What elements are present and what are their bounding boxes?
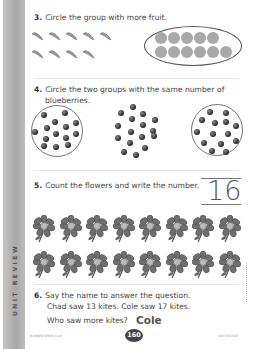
- blueberry-icon: [118, 110, 124, 116]
- orange-icon: [168, 32, 180, 44]
- blueberry-icon: [63, 135, 69, 141]
- blueberry-icon: [41, 143, 47, 149]
- question-3: 3.Circle the group with more fruit.: [34, 13, 167, 22]
- blueberry-icon: [223, 110, 229, 116]
- blueberry-icon: [41, 112, 47, 118]
- flower-icon: [33, 215, 55, 243]
- flower-icon: [86, 251, 108, 279]
- flower-icon: [86, 215, 108, 243]
- blueberry-icon: [53, 144, 59, 150]
- orange-icon: [194, 46, 206, 58]
- blueberry-icon: [133, 152, 139, 158]
- orange-icon: [181, 32, 193, 44]
- blueberry-icon: [199, 117, 205, 123]
- blueberry-icon: [128, 129, 134, 135]
- orange-icon: [168, 46, 180, 58]
- blueberry-icon: [233, 138, 239, 144]
- orange-icon: [220, 46, 232, 58]
- blueberry-icon: [212, 120, 218, 126]
- flower-icon: [113, 215, 135, 243]
- question-6-prompt: Who saw more kites?: [47, 316, 128, 325]
- blueberry-icon: [140, 122, 146, 128]
- blueberry-icon: [121, 149, 127, 155]
- orange-icon: [181, 46, 193, 58]
- blueberry-icon: [62, 110, 68, 116]
- banana-icon: [48, 31, 62, 41]
- flower-icon: [60, 251, 82, 279]
- question-4: 4.Circle the two groups with the same nu…: [34, 84, 224, 106]
- blueberry-icon: [44, 125, 50, 131]
- blueberry-icon: [53, 131, 59, 137]
- orange-icon: [194, 32, 206, 44]
- blueberry-icon: [223, 119, 229, 125]
- orange-icon: [207, 46, 219, 58]
- blueberry-icon: [209, 148, 215, 154]
- banana-icon: [31, 49, 45, 59]
- flower-icon: [60, 215, 82, 243]
- answer-value: Cole: [136, 314, 162, 326]
- flower-icon: [192, 215, 214, 243]
- banana-icon: [31, 31, 45, 41]
- blueberry-icon: [139, 134, 145, 140]
- answer-bottom-line: [201, 204, 241, 205]
- answer-value: 16: [207, 176, 241, 206]
- blueberry-icon: [130, 104, 136, 110]
- blueberry-icon: [142, 145, 148, 151]
- blueberry-icon: [233, 123, 239, 129]
- flower-icon: [33, 251, 55, 279]
- flower-icon: [192, 251, 214, 279]
- blueberry-icon: [127, 140, 133, 146]
- blueberry-icon: [115, 123, 121, 129]
- blueberry-icon: [43, 136, 49, 142]
- question-5: 5.Count the flowers and write the number…: [34, 181, 199, 190]
- flower-icon: [113, 251, 135, 279]
- banana-icon: [48, 49, 62, 59]
- orange-icon: [155, 46, 167, 58]
- blueberry-icon: [151, 133, 157, 139]
- blueberry-icon: [225, 131, 231, 137]
- blueberry-icon: [194, 129, 200, 135]
- flower-icon: [166, 251, 188, 279]
- blueberry-icon: [63, 124, 69, 130]
- question-6: 6.Say the name to answer the question. C…: [34, 290, 190, 312]
- copyright-note: [246, 263, 247, 303]
- flower-icon: [166, 215, 188, 243]
- blueberry-icon: [52, 119, 58, 125]
- orange-icon: [207, 32, 219, 44]
- blueberry-icon: [32, 129, 38, 135]
- banana-icon: [82, 31, 96, 41]
- unit-review-label: UNIT REVIEW: [3, 240, 25, 320]
- banana-icon: [82, 49, 96, 59]
- footer-right: UNIT REVIEW: [218, 334, 238, 338]
- footer-left: NUMBER SENSE 0-20: [30, 334, 62, 338]
- blueberry-icon: [65, 142, 71, 148]
- blueberry-icon: [201, 140, 207, 146]
- blueberry-icon: [115, 135, 121, 141]
- divider: [34, 170, 239, 171]
- blueberry-icon: [73, 131, 79, 137]
- orange-icon: [155, 32, 167, 44]
- blueberry-icon: [129, 116, 135, 122]
- flower-icon: [139, 251, 161, 279]
- blueberry-icon: [223, 149, 229, 155]
- banana-icon: [65, 49, 79, 59]
- answer-box[interactable]: 16: [201, 176, 241, 210]
- divider: [34, 284, 239, 285]
- blueberry-icon: [218, 141, 224, 147]
- blueberry-icon: [140, 111, 146, 117]
- flower-icon: [219, 251, 241, 279]
- banana-icon: [99, 31, 113, 41]
- banana-icon: [65, 31, 79, 41]
- blueberry-icon: [207, 109, 213, 115]
- blueberry-icon: [210, 131, 216, 137]
- blueberry-icon: [152, 117, 158, 123]
- blueberry-icon: [73, 120, 79, 126]
- flower-icon: [139, 215, 161, 243]
- divider: [34, 78, 239, 79]
- page-number: 160: [125, 329, 143, 342]
- flower-icon: [219, 215, 241, 243]
